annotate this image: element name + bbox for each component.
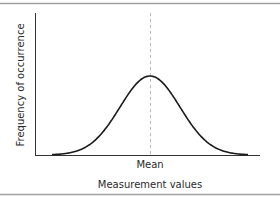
chart-frame: Mean Measurement values Frequency of occ… [0, 0, 280, 198]
x-axis-label: Measurement values [98, 179, 202, 190]
mean-tick-label: Mean [136, 159, 163, 170]
y-axis-label: Frequency of occurrence [15, 23, 26, 146]
bell-curve-chart: Mean Measurement values Frequency of occ… [0, 0, 280, 198]
